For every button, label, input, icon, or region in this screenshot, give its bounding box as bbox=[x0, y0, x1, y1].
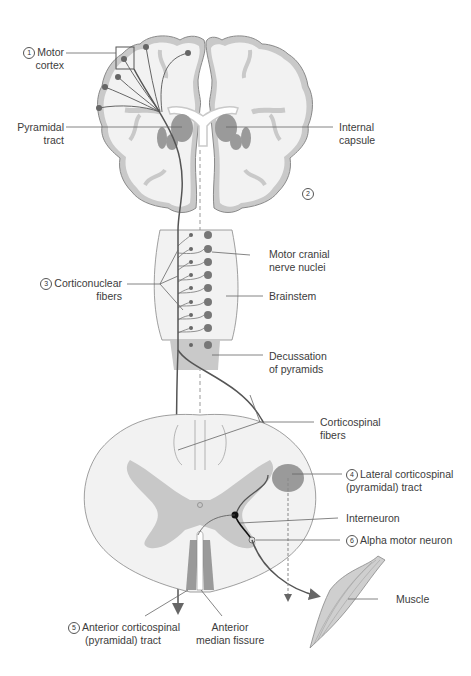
marker-6: 6 bbox=[346, 535, 358, 547]
muscle bbox=[310, 556, 385, 648]
brainstem bbox=[154, 230, 238, 370]
label-anterior-median-fissure: Anterior median fissure bbox=[196, 621, 264, 646]
label-pyramidal-tract: Pyramidal tract bbox=[4, 121, 64, 146]
label-muscle: Muscle bbox=[396, 593, 429, 606]
label-corticospinal-fibers: Corticospinal fibers bbox=[320, 416, 381, 441]
label-decussation-of-pyramids: Decussation of pyramids bbox=[269, 350, 327, 375]
label-anterior-corticospinal-tract: 5Anterior corticospinal (pyramidal) trac… bbox=[68, 621, 178, 647]
label-interneuron: Interneuron bbox=[346, 512, 400, 525]
label-brainstem: Brainstem bbox=[269, 290, 316, 303]
label-internal-capsule: Internal capsule bbox=[339, 121, 375, 146]
spinal-cord-section bbox=[84, 414, 316, 592]
label-lateral-corticospinal-tract: 4Lateral corticospinal (pyramidal) tract bbox=[346, 468, 453, 494]
label-motor-cranial-nerve-nuclei: Motor cranial nerve nuclei bbox=[269, 248, 330, 273]
label-motor-cortex: 1Motor cortex bbox=[4, 46, 64, 72]
label-marker-2: 2 bbox=[302, 187, 316, 200]
label-alpha-motor-neuron: 6Alpha motor neuron bbox=[346, 534, 452, 547]
label-corticonuclear-fibers: 3Corticonuclear fibers bbox=[20, 277, 122, 303]
pyramidal-pathway-diagram bbox=[0, 0, 471, 676]
marker-1: 1 bbox=[23, 47, 35, 59]
marker-5: 5 bbox=[68, 622, 80, 634]
marker-3: 3 bbox=[40, 278, 52, 290]
brain-coronal-section bbox=[98, 36, 313, 213]
marker-4: 4 bbox=[346, 469, 358, 481]
